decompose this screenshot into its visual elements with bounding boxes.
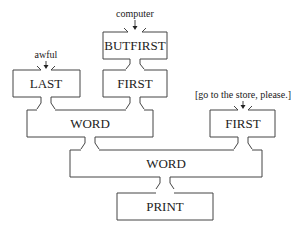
box-label: WORD xyxy=(70,116,110,131)
box-last: LAST xyxy=(13,66,80,109)
box-label: PRINT xyxy=(146,199,184,214)
box-butfirst: BUTFIRST xyxy=(103,28,167,69)
input-sentence: [go to the store, please.] xyxy=(195,89,291,100)
box-label: WORD xyxy=(146,156,186,171)
box-label: FIRST xyxy=(225,116,260,131)
box-first-right: FIRST xyxy=(210,106,275,149)
box-label: FIRST xyxy=(117,76,152,91)
procedure-diagram: computer awful [go to the store, please.… xyxy=(0,0,303,229)
arrow-icon xyxy=(133,20,138,30)
box-label: BUTFIRST xyxy=(104,38,165,53)
input-awful: awful xyxy=(35,49,58,60)
box-first-middle: FIRST xyxy=(103,70,167,109)
arrow-icon xyxy=(44,61,49,69)
input-computer: computer xyxy=(116,8,154,19)
box-word-outer: WORD xyxy=(70,150,262,189)
box-label: LAST xyxy=(30,76,63,91)
box-word-inner: WORD xyxy=(27,110,153,149)
box-print: PRINT xyxy=(117,193,213,220)
arrow-icon xyxy=(241,101,246,109)
